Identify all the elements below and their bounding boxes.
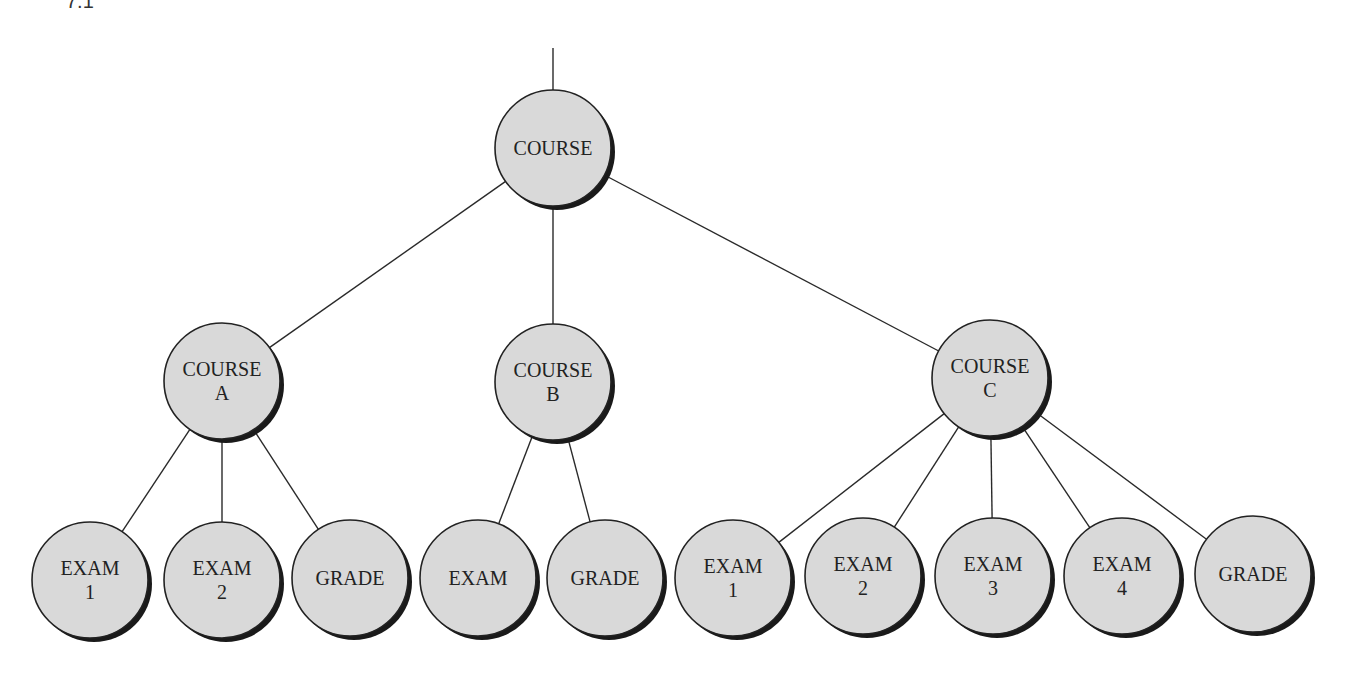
- node-label: COURSE: [514, 137, 593, 159]
- edge-course-b-to-b-grade: [568, 438, 590, 522]
- edge-root-to-course-c: [604, 175, 938, 351]
- node-course-c: COURSEC: [932, 320, 1052, 440]
- node-a-grade: GRADE: [292, 520, 412, 640]
- node-label: EXAM: [449, 567, 508, 589]
- node-root: COURSE: [495, 90, 615, 210]
- node-a-exam-2: EXAM2: [164, 522, 284, 642]
- edge-course-b-to-b-exam: [499, 436, 533, 524]
- edges-layer: [122, 48, 1206, 542]
- node-circle: [32, 522, 148, 638]
- node-label: COURSE: [183, 358, 262, 380]
- edge-course-a-to-a-grade: [254, 430, 319, 530]
- node-label: 1: [728, 579, 738, 601]
- node-label: COURSE: [951, 355, 1030, 377]
- node-circle: [495, 324, 611, 440]
- node-label: EXAM: [193, 557, 252, 579]
- node-label: A: [215, 382, 230, 404]
- node-label: COURSE: [514, 359, 593, 381]
- node-circle: [164, 323, 280, 439]
- node-circle: [675, 520, 791, 636]
- edge-root-to-course-a: [269, 181, 505, 347]
- nodes-layer: COURSECOURSEACOURSEBCOURSECEXAM1EXAM2GRA…: [32, 90, 1315, 642]
- node-label: EXAM: [704, 555, 763, 577]
- node-a-exam-1: EXAM1: [32, 522, 152, 642]
- node-label: GRADE: [571, 567, 640, 589]
- node-b-grade: GRADE: [547, 520, 667, 640]
- node-c-exam-3: EXAM3: [935, 518, 1055, 638]
- node-c-exam-4: EXAM4: [1064, 518, 1184, 638]
- node-circle: [805, 518, 921, 634]
- node-course-b: COURSEB: [495, 324, 615, 444]
- node-label: GRADE: [316, 567, 385, 589]
- edge-course-c-to-c-exam-4: [1022, 426, 1090, 527]
- node-course-a: COURSEA: [164, 323, 284, 443]
- node-label: 2: [858, 577, 868, 599]
- edge-course-c-to-c-exam-2: [894, 427, 958, 527]
- node-label: 2: [217, 581, 227, 603]
- node-label: 1: [85, 581, 95, 603]
- node-c-exam-2: EXAM2: [805, 518, 925, 638]
- node-label: EXAM: [1093, 553, 1152, 575]
- node-circle: [1064, 518, 1180, 634]
- node-circle: [932, 320, 1048, 436]
- node-c-grade: GRADE: [1195, 516, 1315, 636]
- edge-course-a-to-a-exam-1: [122, 429, 190, 531]
- hierarchy-tree-diagram: COURSECOURSEACOURSEBCOURSECEXAM1EXAM2GRA…: [0, 0, 1348, 686]
- node-label: 4: [1117, 577, 1127, 599]
- edge-course-c-to-c-exam-3: [991, 436, 992, 518]
- node-label: EXAM: [964, 553, 1023, 575]
- node-label: EXAM: [61, 557, 120, 579]
- node-label: B: [546, 383, 559, 405]
- node-c-exam-1: EXAM1: [675, 520, 795, 640]
- node-circle: [164, 522, 280, 638]
- node-label: GRADE: [1219, 563, 1288, 585]
- node-circle: [935, 518, 1051, 634]
- node-b-exam: EXAM: [420, 520, 540, 640]
- node-label: C: [983, 379, 996, 401]
- node-label: EXAM: [834, 553, 893, 575]
- node-label: 3: [988, 577, 998, 599]
